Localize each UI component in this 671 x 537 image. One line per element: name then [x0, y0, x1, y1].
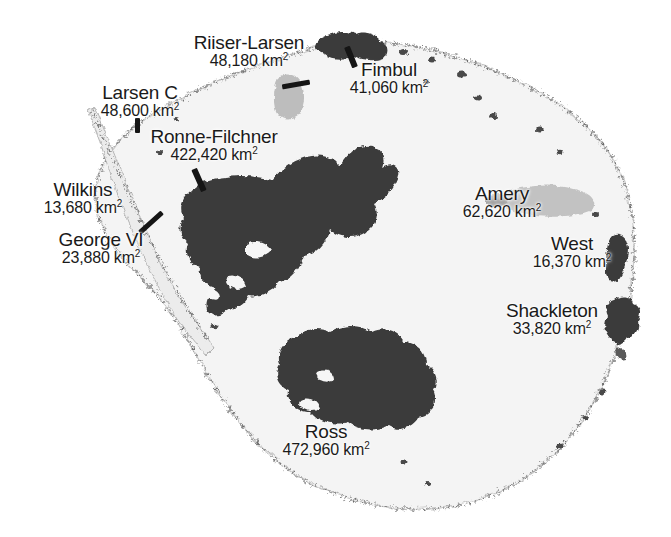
- label-area-shackleton: 33,820 km2: [486, 321, 618, 338]
- label-area-wilkins: 13,680 km2: [26, 200, 140, 217]
- label-name-shackleton: Shackleton: [486, 301, 618, 321]
- map-label-shackleton: Shackleton 33,820 km2: [486, 301, 618, 338]
- label-area-ronne-filchner: 422,420 km2: [130, 147, 298, 164]
- label-name-west: West: [514, 234, 630, 254]
- label-name-george-vi: George VI: [38, 230, 164, 250]
- label-name-amery: Amery: [444, 184, 560, 204]
- map-label-larsen-c: Larsen C 48,600 km2: [84, 83, 196, 120]
- label-area-west: 16,370 km2: [514, 254, 630, 271]
- map-label-ronne-filchner: Ronne-Filchner 422,420 km2: [130, 127, 298, 164]
- label-name-riiser-larsen: Riiser-Larsen: [186, 33, 312, 53]
- label-name-larsen-c: Larsen C: [84, 83, 196, 103]
- label-name-wilkins: Wilkins: [26, 180, 140, 200]
- label-area-fimbul: 41,060 km2: [337, 80, 441, 97]
- map-label-riiser-larsen: Riiser-Larsen 48,180 km2: [186, 33, 312, 70]
- map-label-fimbul: Fimbul 41,060 km2: [337, 60, 441, 97]
- map-label-wilkins: Wilkins 13,680 km2: [26, 180, 140, 217]
- label-area-ross: 472,960 km2: [258, 442, 394, 459]
- label-area-george-vi: 23,880 km2: [38, 250, 164, 267]
- map-label-ross: Ross 472,960 km2: [258, 422, 394, 459]
- label-area-larsen-c: 48,600 km2: [84, 103, 196, 120]
- label-area-riiser-larsen: 48,180 km2: [186, 53, 312, 70]
- antarctica-ice-shelf-map: Riiser-Larsen 48,180 km2 Fimbul 41,060 k…: [0, 0, 671, 537]
- map-label-george-vi: George VI 23,880 km2: [38, 230, 164, 267]
- map-label-west: West 16,370 km2: [514, 234, 630, 271]
- label-name-ronne-filchner: Ronne-Filchner: [130, 127, 298, 147]
- label-name-ross: Ross: [258, 422, 394, 442]
- map-label-amery: Amery 62,620 km2: [444, 184, 560, 221]
- label-area-amery: 62,620 km2: [444, 204, 560, 221]
